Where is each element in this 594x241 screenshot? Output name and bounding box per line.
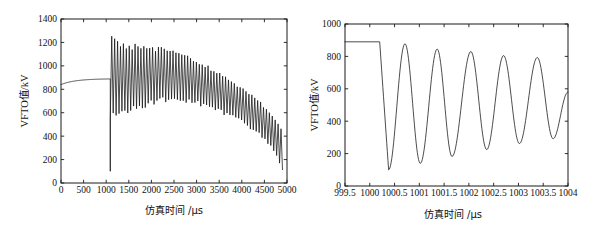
left-y-tick-labels: 0200400600800100012001400 xyxy=(38,14,57,188)
x-tick-label: 1500 xyxy=(119,185,138,195)
x-tick-label: 5000 xyxy=(278,185,297,195)
y-tick-label: 800 xyxy=(43,85,58,95)
left-tickmarks xyxy=(61,19,287,183)
y-tick-label: 1400 xyxy=(38,14,57,24)
left-y-axis-title: VFTO值/kV xyxy=(18,74,30,127)
x-tick-label: 2000 xyxy=(142,185,161,195)
y-tick-label: 200 xyxy=(43,155,58,165)
x-tick-label: 1004 xyxy=(559,188,578,198)
x-tick-label: 3000 xyxy=(187,185,206,195)
y-tick-label: 1200 xyxy=(38,38,57,48)
x-tick-label: 500 xyxy=(76,185,91,195)
x-tick-label: 1001 xyxy=(410,188,429,198)
x-tick-label: 1002 xyxy=(459,188,478,198)
left-axes xyxy=(61,19,287,183)
right-y-tick-labels: 02004006008001000 xyxy=(322,19,341,191)
x-tick-label: 1003.5 xyxy=(530,188,556,198)
right-chart-svg: 999.510001000.510011001.510021002.510031… xyxy=(297,0,594,241)
left-chart-svg: 0500100015002000250030003500400045005000… xyxy=(0,0,297,241)
right-tickmarks xyxy=(345,24,568,186)
figure-container: 0500100015002000250030003500400045005000… xyxy=(0,0,594,241)
chart-panel-right: 999.510001000.510011001.510021002.510031… xyxy=(297,0,594,241)
x-tick-label: 2500 xyxy=(165,185,184,195)
y-tick-label: 0 xyxy=(52,178,57,188)
chart-panel-left: 0500100015002000250030003500400045005000… xyxy=(0,0,297,241)
left-x-axis-title: 仿真时间 /μs xyxy=(145,204,203,216)
x-tick-label: 1003 xyxy=(509,188,528,198)
x-tick-label: 1002.5 xyxy=(481,188,507,198)
x-tick-label: 4500 xyxy=(255,185,274,195)
right-y-axis-title: VFTO值/kV xyxy=(308,78,320,131)
y-tick-label: 600 xyxy=(43,108,58,118)
x-tick-label: 4000 xyxy=(232,185,251,195)
left-x-tick-labels: 0500100015002000250030003500400045005000 xyxy=(59,185,297,195)
right-waveform-trace xyxy=(345,42,568,170)
y-tick-label: 800 xyxy=(327,52,342,62)
y-tick-label: 200 xyxy=(327,149,342,159)
right-x-axis-title: 仿真时间 /μs xyxy=(424,208,482,220)
x-tick-label: 3500 xyxy=(210,185,229,195)
right-axes xyxy=(345,24,568,186)
x-tick-label: 0 xyxy=(59,185,64,195)
y-tick-label: 600 xyxy=(327,84,342,94)
y-tick-label: 400 xyxy=(43,132,58,142)
y-tick-label: 1000 xyxy=(38,61,57,71)
left-waveform-trace xyxy=(61,36,282,171)
y-tick-label: 400 xyxy=(327,117,342,127)
y-tick-label: 0 xyxy=(336,181,341,191)
x-tick-label: 1001.5 xyxy=(431,188,457,198)
x-tick-label: 1000.5 xyxy=(381,188,407,198)
right-x-tick-labels: 999.510001000.510011001.510021002.510031… xyxy=(334,188,577,198)
y-tick-label: 1000 xyxy=(322,19,341,29)
x-tick-label: 1000 xyxy=(97,185,116,195)
x-tick-label: 1000 xyxy=(360,188,379,198)
